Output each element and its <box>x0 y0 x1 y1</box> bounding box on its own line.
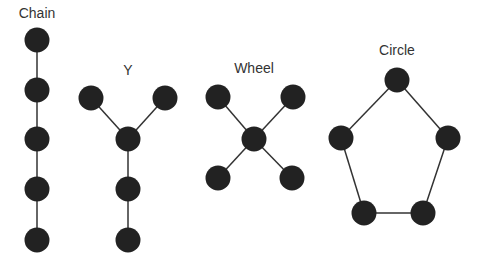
node <box>25 177 50 202</box>
node <box>329 126 354 151</box>
node <box>385 68 410 93</box>
node <box>153 86 178 111</box>
node <box>79 86 104 111</box>
node <box>206 166 231 191</box>
node <box>25 78 50 103</box>
network-label-chain: Chain <box>19 5 56 21</box>
node <box>116 127 141 152</box>
node <box>25 28 50 53</box>
node <box>436 126 461 151</box>
node <box>352 201 377 226</box>
network-y: Y <box>79 62 178 253</box>
network-label-y: Y <box>123 62 133 78</box>
node <box>25 127 50 152</box>
node <box>242 127 267 152</box>
node <box>281 85 306 110</box>
node <box>116 177 141 202</box>
network-circle: Circle <box>329 42 461 226</box>
network-wheel: Wheel <box>206 60 306 191</box>
node <box>206 85 231 110</box>
node <box>116 228 141 253</box>
node <box>411 201 436 226</box>
network-label-circle: Circle <box>379 42 415 58</box>
network-chain: Chain <box>19 5 56 253</box>
network-diagram: ChainYWheelCircle <box>0 0 484 264</box>
network-label-wheel: Wheel <box>234 60 274 76</box>
node <box>25 228 50 253</box>
node <box>280 166 305 191</box>
